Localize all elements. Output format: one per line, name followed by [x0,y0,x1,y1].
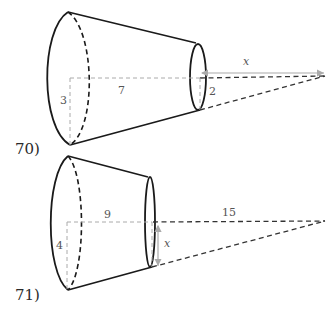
figure-70: 3 7 2 x 70) [15,12,325,158]
apex-slant-extension [152,221,325,267]
frustum-diagrams: 3 7 2 x 70) 4 9 15 x 71) [0,0,336,312]
extended-axis [153,221,325,222]
label-length-9: 9 [104,208,111,221]
extended-axis [200,76,325,78]
label-x: x [243,55,250,68]
label-radius-2: 2 [209,85,216,98]
bottom-slant-edge [68,267,152,290]
label-x: x [164,237,171,250]
large-base-front-arc [47,12,70,145]
label-length-7: 7 [118,84,125,97]
figure-71: 4 9 15 x 71) [15,156,325,304]
problem-number-71: 71) [15,286,40,304]
bottom-slant-edge [70,110,200,145]
large-base-front-arc [51,156,68,290]
label-length-15: 15 [222,206,236,219]
large-base-hidden-arc [68,156,82,290]
label-radius-3: 3 [60,94,67,107]
apex-slant-extension [200,76,325,110]
label-radius-4: 4 [56,239,63,252]
top-slant-edge [68,156,148,177]
problem-number-70: 70) [15,140,40,158]
top-slant-edge [68,12,196,43]
small-base-ellipse [190,44,206,110]
